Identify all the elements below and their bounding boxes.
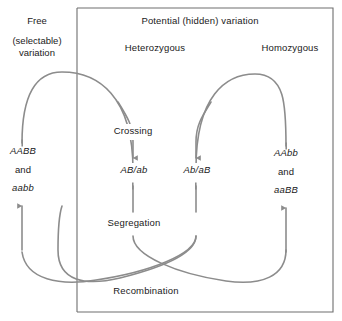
free-variation-line1: Free bbox=[0, 16, 74, 26]
left-genotype-group: AABB and aabb bbox=[0, 146, 46, 193]
genotype-Ab-aB: Ab/aB bbox=[174, 165, 220, 175]
free-variation-line2: (selectable) bbox=[0, 36, 74, 46]
heterozygous-label: Heterozygous bbox=[100, 43, 210, 53]
genotype-AB-ab: AB/ab bbox=[111, 165, 157, 175]
arrow-crossing-to-Ab-aB bbox=[196, 102, 211, 158]
genotype-aabb: aabb bbox=[0, 183, 46, 193]
recombination-label: Recombination bbox=[100, 286, 192, 296]
recombination-path-right-full bbox=[133, 236, 286, 282]
left-genotype-conjunction: and bbox=[0, 165, 46, 175]
segregation-label: Segregation bbox=[96, 218, 172, 228]
genotype-AABB: AABB bbox=[0, 146, 46, 156]
right-genotype-group: AAbb and aaBB bbox=[263, 148, 309, 195]
genotype-AAbb: AAbb bbox=[263, 148, 309, 158]
genetic-variation-diagram: Potential (hidden) variation Heterozygou… bbox=[0, 0, 342, 321]
right-genotype-conjunction: and bbox=[263, 167, 309, 177]
free-variation-label-group: Free (selectable) variation bbox=[0, 16, 74, 58]
crossing-label: Crossing bbox=[103, 126, 163, 136]
genotype-aaBB: aaBB bbox=[263, 185, 309, 195]
homozygous-label: Homozygous bbox=[240, 43, 340, 53]
recombination-path-left-full bbox=[22, 236, 196, 282]
potential-variation-label: Potential (hidden) variation bbox=[130, 16, 270, 26]
free-variation-line3: variation bbox=[0, 48, 74, 58]
